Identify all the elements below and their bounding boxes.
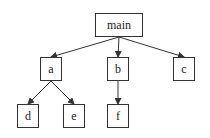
node-c: c: [173, 57, 195, 81]
edge-main-a: [51, 37, 119, 57]
node-label: b: [115, 62, 121, 77]
node-label: a: [48, 62, 53, 77]
node-label: main: [107, 18, 131, 33]
edge-main-c: [119, 37, 184, 57]
node-label: c: [181, 62, 186, 77]
edge-main-b: [118, 37, 119, 57]
node-label: d: [25, 109, 31, 124]
node-a: a: [40, 57, 62, 81]
node-label: e: [71, 109, 76, 124]
node-f: f: [107, 104, 129, 128]
node-d: d: [17, 104, 39, 128]
node-main: main: [95, 13, 143, 37]
node-e: e: [63, 104, 85, 128]
edge-a-e: [51, 81, 74, 104]
edge-a-d: [28, 81, 51, 104]
node-b: b: [107, 57, 129, 81]
node-label: f: [116, 109, 120, 124]
